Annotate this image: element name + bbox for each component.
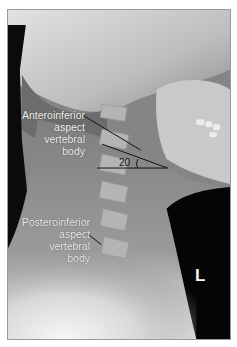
anteroinferior-line-4: body [10,145,85,157]
anteroinferior-line-2: aspect [10,121,85,133]
xray-image [8,10,230,339]
anteroinferior-label: Anteroinferior aspect vertebral body [10,109,85,157]
posteroinferior-line-3: vertebral [10,240,90,252]
anteroinferior-line-3: vertebral [10,133,85,145]
posteroinferior-label: Posteroinferior aspect vertebral body [10,216,90,264]
angle-value: 20 [119,157,130,168]
posteroinferior-line-4: body [10,252,90,264]
side-marker-l: L [195,267,205,285]
anteroinferior-line-1: Anteroinferior [10,109,85,121]
posteroinferior-line-1: Posteroinferior [10,216,90,228]
radiograph-frame: Anteroinferior aspect vertebral body 20 … [7,9,231,340]
posteroinferior-line-2: aspect [10,228,90,240]
